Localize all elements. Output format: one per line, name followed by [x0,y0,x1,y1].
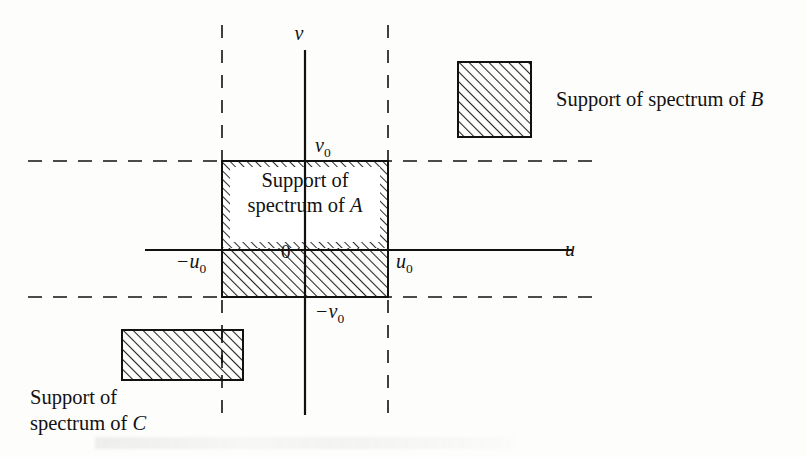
support-c-legend-line2: spectrum of C [30,412,146,435]
support-a-label-line2-prefix: spectrum of [247,194,349,217]
support-b-legend-label: Support of spectrum of B [556,88,764,111]
spectrum-support-diagram: Support of spectrum of A u v 0 u0 −u0 [0,0,807,457]
support-c-legend-line2-prefix: spectrum of [30,412,132,435]
figure-canvas: Support of spectrum of A u v 0 u0 −u0 [0,0,807,457]
tick-v0-positive-sub: 0 [324,145,331,160]
support-a-symbol: A [348,194,363,216]
tick-u0-positive-base: u [396,250,406,272]
tick-u0-negative-base: −u [176,250,200,272]
tick-label-v0-positive: v0 [315,134,331,160]
support-b-symbol: B [751,88,764,110]
support-of-spectrum-b-legend: Support of spectrum of B [458,62,764,137]
support-b-swatch-hatch [458,62,531,137]
support-b-legend-prefix: Support of spectrum of [556,88,751,111]
support-c-symbol: C [132,412,146,434]
v-axis-label: v [295,22,304,44]
tick-v0-negative-sub: 0 [337,311,344,326]
tick-u0-positive-sub: 0 [406,261,413,276]
support-of-spectrum-c-legend: Support of spectrum of C [30,330,243,435]
u-axis-label: u [565,238,575,260]
tick-label-u0-negative: −u0 [176,250,207,276]
tick-u0-negative-sub: 0 [200,261,207,276]
tick-v0-negative-base: −v [315,300,337,322]
support-c-legend-line1: Support of [30,386,117,409]
tick-label-v0-negative: −v0 [315,300,344,326]
tick-label-u0-positive: u0 [396,250,413,276]
tick-v0-positive-base: v [315,134,324,156]
origin-label: 0 [281,241,291,262]
support-c-swatch-hatch [122,330,243,380]
